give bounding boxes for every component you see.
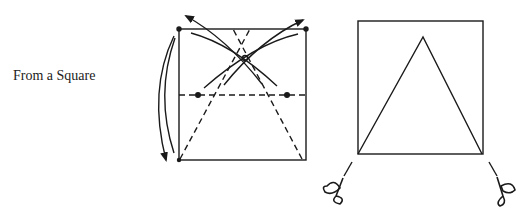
triangle-fold-dashed-left (180, 29, 250, 159)
fold-arrow-right (224, 20, 303, 85)
fold-arrow-down-outer (159, 36, 174, 160)
fold-arrow-left (186, 16, 262, 84)
cut-result-figure (323, 21, 515, 206)
reference-dot (285, 93, 290, 98)
cut-line-right (489, 162, 497, 176)
origami-diagram (0, 0, 529, 214)
scissors-icon-left (323, 178, 343, 204)
corner-dot (177, 27, 181, 31)
triangle-fold-dashed-right (233, 29, 302, 159)
reference-dot (196, 93, 201, 98)
corner-dot (304, 27, 308, 31)
cut-line-left (344, 162, 352, 176)
triangle-outline (358, 37, 482, 154)
crease-arc-right (204, 34, 298, 88)
folding-step-figure (159, 16, 308, 162)
scissors-icon-right (497, 177, 515, 206)
